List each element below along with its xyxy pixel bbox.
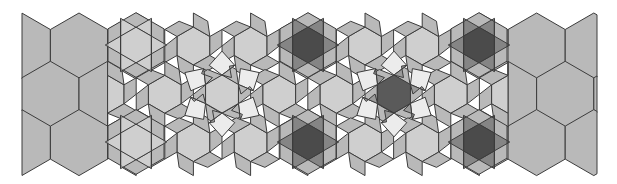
rhombus-piece bbox=[296, 78, 308, 104]
rhombus-piece bbox=[336, 37, 348, 63]
rhombus-piece bbox=[222, 133, 234, 159]
rhombus-piece bbox=[439, 126, 451, 152]
rhombus-piece bbox=[210, 30, 222, 56]
hexagonal-tiling-figure bbox=[0, 0, 617, 184]
rhombus-piece bbox=[336, 133, 348, 159]
rhombus-piece bbox=[308, 85, 320, 111]
rhombus-piece bbox=[165, 37, 177, 63]
tiling-diagram bbox=[0, 0, 617, 184]
rhombus-piece bbox=[479, 85, 491, 111]
rhombus-piece bbox=[267, 126, 279, 152]
big-hexagon bbox=[594, 76, 597, 113]
rhombus-piece bbox=[394, 133, 406, 159]
rhombus-piece bbox=[124, 78, 136, 104]
rhombus-piece bbox=[439, 30, 451, 56]
rhombus-piece bbox=[381, 30, 393, 56]
rhombus-piece bbox=[467, 78, 479, 104]
rhombus-piece bbox=[267, 30, 279, 56]
rhombus-piece bbox=[136, 85, 148, 111]
rhombus-piece bbox=[165, 133, 177, 159]
